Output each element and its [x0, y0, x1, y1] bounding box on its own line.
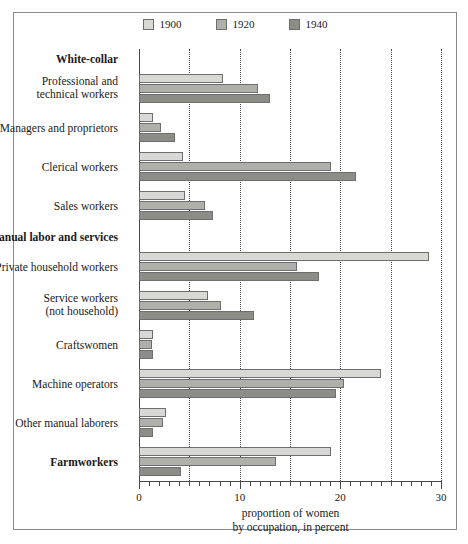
x-tick-3	[169, 482, 170, 486]
bar-1940	[139, 389, 336, 398]
x-tick-25	[391, 482, 392, 486]
x-tick-23	[371, 482, 372, 486]
legend-label-1940: 1940	[306, 19, 328, 30]
bar-1900	[139, 152, 183, 161]
chart-row: White-collar	[139, 49, 441, 71]
legend-entry-1940[interactable]: 1940	[289, 19, 328, 30]
x-tick-5	[189, 482, 190, 486]
bar-1920	[139, 84, 258, 93]
x-tick-21	[350, 482, 351, 486]
bar-1920	[139, 379, 344, 388]
x-tick-28	[421, 482, 422, 486]
x-tick-20	[340, 482, 341, 489]
category-label: Craftswomen	[0, 339, 123, 352]
bar-1940	[139, 94, 270, 103]
category-label: White-collar	[0, 53, 123, 66]
bar-1900	[139, 369, 381, 378]
category-label-line2: (not household)	[0, 305, 118, 318]
x-tick-6	[199, 482, 200, 486]
x-tick-27	[411, 482, 412, 486]
x-tick-15	[290, 482, 291, 486]
x-tick-1	[149, 482, 150, 486]
category-label: Private household workers	[0, 261, 123, 274]
bar-1900	[139, 408, 166, 417]
chart-row: Farmworkers	[139, 444, 441, 483]
bar-1940	[139, 133, 175, 142]
category-label-line2: technical workers	[0, 88, 118, 101]
chart-row: Private household workers	[139, 249, 441, 288]
chart-page: 190019201940 White-collarProfessional an…	[0, 0, 468, 544]
chart-row: Sales workers	[139, 188, 441, 227]
x-tick-7	[209, 482, 210, 486]
bar-1940	[139, 211, 213, 220]
chart-row: Other manual laborers	[139, 405, 441, 444]
category-label: Manual labor and services	[0, 231, 123, 244]
category-label-line1: Professional and	[42, 75, 118, 87]
legend-entry-1900[interactable]: 1900	[143, 19, 182, 30]
bar-1920	[139, 418, 163, 427]
legend-label-1920: 1920	[233, 19, 255, 30]
gridline-30	[441, 49, 442, 481]
bar-1920	[139, 201, 205, 210]
bar-1900	[139, 252, 429, 261]
x-tick-label-20: 20	[335, 491, 346, 503]
x-tick-0	[139, 482, 140, 489]
x-tick-12	[260, 482, 261, 486]
x-tick-17	[310, 482, 311, 486]
category-label: Machine operators	[0, 378, 123, 391]
legend-entry-1920[interactable]: 1920	[216, 19, 255, 30]
bar-1900	[139, 291, 208, 300]
bar-1920	[139, 301, 221, 310]
bar-1900	[139, 113, 153, 122]
chart-row: Service workers(not household)	[139, 288, 441, 327]
bar-1920	[139, 340, 152, 349]
x-axis-caption-line2: by occupation, in percent	[232, 521, 348, 533]
x-tick-19	[330, 482, 331, 486]
bar-1900	[139, 330, 153, 339]
x-tick-13	[270, 482, 271, 486]
x-tick-label-30: 30	[436, 491, 447, 503]
chart-row: Clerical workers	[139, 149, 441, 188]
bar-1940	[139, 172, 356, 181]
x-tick-16	[300, 482, 301, 486]
x-tick-label-0: 0	[136, 491, 142, 503]
x-tick-11	[250, 482, 251, 486]
bar-1940	[139, 350, 153, 359]
x-tick-2	[159, 482, 160, 486]
x-tick-24	[381, 482, 382, 486]
chart-row: Professional andtechnical workers	[139, 71, 441, 110]
chart-frame: 190019201940 White-collarProfessional an…	[13, 12, 457, 530]
bar-1940	[139, 428, 153, 437]
category-label: Farmworkers	[0, 456, 123, 469]
category-label: Clerical workers	[0, 161, 123, 174]
legend-label-1900: 1900	[160, 19, 182, 30]
plot-area: White-collarProfessional andtechnical wo…	[139, 49, 441, 481]
chart-row: Manual labor and services	[139, 227, 441, 249]
legend-swatch-1900	[143, 19, 154, 30]
chart-row: Craftswomen	[139, 327, 441, 366]
x-tick-8	[220, 482, 221, 486]
x-tick-26	[401, 482, 402, 486]
x-tick-label-10: 10	[234, 491, 245, 503]
category-label-line1: Service workers	[44, 292, 118, 304]
x-tick-9	[230, 482, 231, 486]
legend-swatch-1920	[216, 19, 227, 30]
bar-1900	[139, 447, 331, 456]
bar-1920	[139, 162, 331, 171]
x-tick-18	[320, 482, 321, 486]
category-label: Service workers(not household)	[0, 292, 123, 318]
bar-1940	[139, 311, 254, 320]
category-label: Professional andtechnical workers	[0, 75, 123, 101]
chart-row: Machine operators	[139, 366, 441, 405]
bar-1920	[139, 457, 276, 466]
x-tick-30	[441, 482, 442, 489]
x-tick-22	[360, 482, 361, 486]
bar-1940	[139, 467, 181, 476]
x-tick-14	[280, 482, 281, 486]
category-label: Sales workers	[0, 200, 123, 213]
bar-1900	[139, 191, 185, 200]
category-label: Other manual laborers	[0, 417, 123, 430]
x-tick-10	[240, 482, 241, 489]
legend-swatch-1940	[289, 19, 300, 30]
bar-1940	[139, 272, 319, 281]
